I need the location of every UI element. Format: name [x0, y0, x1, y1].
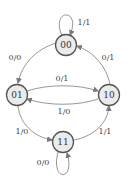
- state-label-00: 00: [60, 40, 72, 50]
- edge-label-00-00: 1/1: [78, 18, 91, 27]
- state-diagram: 1/1 0/0 0/1 0/1 1/0 1/0 1/1 0/0 00 01 10…: [0, 0, 129, 183]
- edge-label-00-01: 0/0: [9, 53, 22, 62]
- edge-00-00: [59, 15, 72, 36]
- edge-label-10-01: 1/0: [58, 107, 71, 116]
- edge-label-10-00: 0/1: [102, 53, 115, 62]
- edge-01-10: [27, 86, 98, 91]
- edge-label-01-11: 1/0: [16, 127, 29, 136]
- edge-label-01-10: 0/1: [56, 74, 69, 83]
- edge-00-01: [18, 43, 56, 83]
- edge-label-11-10: 1/1: [99, 127, 112, 136]
- state-label-10: 10: [103, 90, 115, 100]
- edge-label-11-11: 0/0: [37, 158, 50, 167]
- state-node-01: 01: [7, 85, 28, 106]
- state-node-10: 10: [99, 85, 120, 106]
- state-node-00: 00: [56, 35, 77, 56]
- state-node-11: 11: [53, 132, 74, 153]
- edge-10-01: [27, 99, 98, 104]
- state-label-01: 01: [11, 90, 22, 100]
- state-label-11: 11: [57, 137, 68, 147]
- edge-11-11: [56, 152, 68, 175]
